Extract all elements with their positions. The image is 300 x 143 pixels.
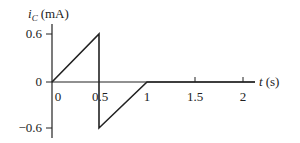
x-tick-label-0: 0 xyxy=(55,89,62,104)
x-tick-label-1: 1 xyxy=(144,89,151,104)
y-axis-title-unit: (mA) xyxy=(41,6,69,21)
y-axis-title-sub: C xyxy=(32,13,39,23)
x-axis-title-unit: (s) xyxy=(266,74,280,89)
y-tick-label-neg0.6: −0.6 xyxy=(18,120,42,135)
x-tick-label-0.5: 0.5 xyxy=(92,89,108,104)
y-axis-title: iC(mA) xyxy=(28,6,69,23)
y-tick-label-0.6: 0.6 xyxy=(26,26,43,41)
x-axis-title: t(s) xyxy=(259,74,279,89)
x-tick-label-1.5: 1.5 xyxy=(187,89,203,104)
x-axis-title-var: t xyxy=(259,74,263,89)
x-tick-label-2: 2 xyxy=(240,89,247,104)
current-waveform-chart: 0.6 0 −0.6 0 0.5 1 1.5 2 iC(mA) t(s) xyxy=(0,0,300,143)
waveform-line xyxy=(52,34,255,128)
y-tick-label-0: 0 xyxy=(36,74,43,89)
